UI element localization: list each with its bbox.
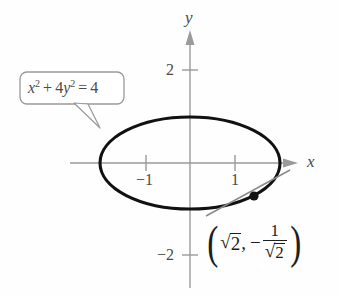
x-axis xyxy=(70,155,298,171)
sqrt-radicand-x: 2 xyxy=(230,233,242,253)
open-paren: ( xyxy=(207,226,218,259)
equation-plus: + xyxy=(43,79,52,96)
equation-exponent-2: 2 xyxy=(70,78,75,89)
coordinate-comma: , xyxy=(241,233,246,252)
point-coordinate-label: ( √ 2 , − 1 √ 2 ) xyxy=(205,222,303,263)
point-leader-line xyxy=(206,170,290,216)
x-coordinate-radical: √ 2 xyxy=(220,232,241,254)
callout-tail xyxy=(74,103,100,128)
fraction-denominator: √ 2 xyxy=(263,241,287,262)
negative-sign: − xyxy=(250,233,261,252)
y-axis xyxy=(182,30,198,288)
denominator-radical: √ 2 xyxy=(265,241,285,262)
fraction-numerator: 1 xyxy=(267,222,282,240)
x-tick-label-neg1: −1 xyxy=(136,172,153,188)
equation-coefficient: 4 xyxy=(55,79,63,96)
equation-rhs: 4 xyxy=(90,79,98,96)
marked-point-dot xyxy=(249,191,258,200)
sqrt-radicand-denominator: 2 xyxy=(274,243,285,263)
y-axis-arrowhead xyxy=(186,30,195,45)
x-axis-label: x xyxy=(307,153,315,170)
y-tick-label-pos2: 2 xyxy=(166,62,174,78)
y-tick-label-neg2: −2 xyxy=(157,247,174,263)
equation-callout-text: x2+4y2=4 xyxy=(28,79,98,96)
close-paren: ) xyxy=(290,226,301,259)
y-axis-label: y xyxy=(185,9,193,26)
equation-equals: = xyxy=(78,79,87,96)
equation-exponent-1: 2 xyxy=(35,78,40,89)
y-coordinate-fraction: 1 √ 2 xyxy=(263,222,287,263)
ellipse-figure: x y −1 1 2 −2 x2+4y2=4 ( √ 2 , − 1 √ 2 ) xyxy=(0,0,341,295)
x-tick-label-pos1: 1 xyxy=(231,172,239,188)
x-axis-arrowhead xyxy=(283,159,298,168)
